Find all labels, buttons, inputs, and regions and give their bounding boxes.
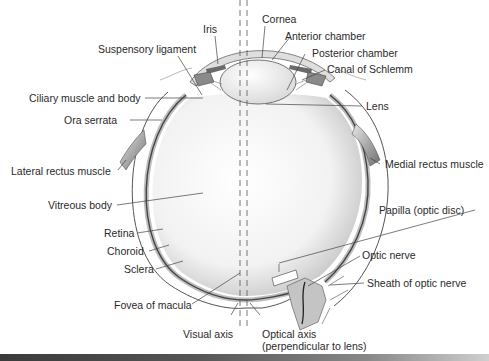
label-sheath-of-optic-nerve: Sheath of optic nerve — [367, 277, 466, 289]
label-lens: Lens — [366, 100, 389, 112]
label-choroid: Choroid — [107, 245, 144, 257]
label-optical-axis: Optical axis — [262, 328, 316, 340]
label-suspensory-ligament: Suspensory ligament — [98, 43, 196, 55]
label-cornea: Cornea — [262, 13, 296, 25]
label-fovea-of-macula: Fovea of macula — [114, 299, 192, 311]
label-sclera: Sclera — [124, 263, 154, 275]
label-ciliary-muscle: Ciliary muscle and body — [29, 92, 140, 104]
label-posterior-chamber: Posterior chamber — [312, 47, 398, 59]
label-vitreous-body: Vitreous body — [48, 199, 112, 211]
label-anterior-chamber: Anterior chamber — [285, 30, 366, 42]
label-optic-nerve: Optic nerve — [362, 249, 416, 261]
label-iris: Iris — [203, 23, 217, 35]
suspensory-ligament-right-icon — [296, 80, 306, 90]
label-lateral-rectus-muscle: Lateral rectus muscle — [11, 165, 111, 177]
lens-icon — [220, 60, 296, 104]
label-canal-of-schlemm: Canal of Schlemm — [327, 63, 413, 75]
label-optical-axis-note: (perpendicular to lens) — [262, 340, 366, 352]
label-papilla: Papilla (optic disc) — [379, 204, 464, 216]
vitreous-body-icon — [152, 94, 362, 297]
bottom-border-bar — [0, 354, 489, 361]
lateral-rectus-muscle-icon — [120, 130, 146, 170]
label-visual-axis: Visual axis — [183, 328, 233, 340]
label-ora-serrata: Ora serrata — [64, 114, 117, 126]
eye-illustration — [0, 0, 489, 361]
label-medial-rectus-muscle: Medial rectus muscle — [385, 158, 484, 170]
label-retina: Retina — [104, 227, 134, 239]
eye-diagram: Iris Cornea Anterior chamber Suspensory … — [0, 0, 489, 361]
